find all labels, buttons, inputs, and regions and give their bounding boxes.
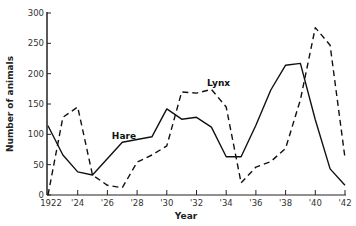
x-tick-label: '32 — [190, 198, 203, 208]
x-tick-label: '34 — [220, 198, 233, 208]
y-axis-title: Number of animals — [5, 56, 15, 152]
x-tick-label: '30 — [160, 198, 173, 208]
y-tick-label: 200 — [28, 69, 44, 79]
x-tick-label: '26 — [101, 198, 114, 208]
hare-line — [48, 63, 345, 185]
x-tick-label: 1922 — [40, 198, 62, 208]
y-tick-label: 50 — [33, 160, 44, 170]
y-tick-label: 150 — [28, 99, 44, 109]
x-tick-label: '36 — [249, 198, 262, 208]
x-tick-label: '40 — [309, 198, 322, 208]
lynx-label: Lynx — [207, 78, 230, 88]
series-layer: HareLynx — [48, 28, 345, 195]
lynx-line — [48, 28, 345, 195]
x-tick-label: '38 — [279, 198, 292, 208]
y-tick-label: 300 — [28, 8, 44, 18]
x-axis-ticks: 1922'24'26'28'30'32'34'36'38'40'42 — [40, 190, 351, 208]
hare-label: Hare — [112, 131, 136, 141]
x-tick-label: '28 — [131, 198, 144, 208]
y-tick-label: 100 — [28, 129, 44, 139]
y-axis: 050100150200250300 — [28, 8, 51, 200]
y-tick-label: 250 — [28, 38, 44, 48]
x-axis: 1922'24'26'28'30'32'34'36'38'40'42 — [40, 190, 351, 208]
x-tick-label: '24 — [71, 198, 84, 208]
line-chart: 050100150200250300 1922'24'26'28'30'32'3… — [0, 0, 356, 226]
x-axis-title: Year — [174, 211, 198, 221]
x-tick-label: '42 — [338, 198, 351, 208]
